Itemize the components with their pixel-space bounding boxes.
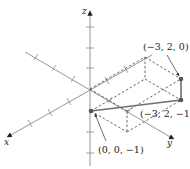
point-0-0-neg1: [89, 109, 94, 114]
x-axis-label: x: [4, 137, 9, 147]
label-point-0-0-neg1: (0, 0, −1): [98, 144, 144, 155]
callout-arrows: [95, 55, 179, 141]
y-axis: y: [25, 52, 173, 148]
dashed-projection-box: [90, 57, 181, 132]
point-neg3-2-0: [179, 77, 184, 82]
diagram-canvas: z x y: [0, 0, 190, 169]
label-point-neg3-2-neg1: (−3, 2, −1): [140, 108, 190, 119]
path-segments: [91, 79, 181, 111]
z-axis-label: z: [81, 6, 87, 16]
point-neg3-2-neg1: [179, 98, 184, 103]
y-axis-label: y: [166, 138, 173, 148]
diagram-3d-points: z x y: [0, 0, 190, 169]
x-axis: x: [4, 55, 152, 147]
label-point-neg3-2-0: (−3, 2, 0): [143, 41, 189, 52]
